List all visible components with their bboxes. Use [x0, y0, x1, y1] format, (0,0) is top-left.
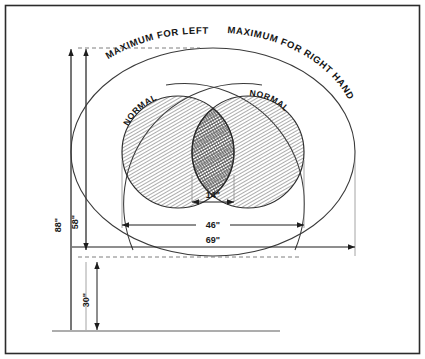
- dimension-46in-label: 46": [206, 220, 220, 230]
- diagram-canvas: MAXIMUM FOR LEFT HAND MAXIMUM FOR RIGHT …: [0, 0, 425, 359]
- reach-envelope-figure: MAXIMUM FOR LEFT HAND MAXIMUM FOR RIGHT …: [0, 0, 425, 359]
- dimension-58in-label: 58": [70, 215, 80, 229]
- dimension-69in-label: 69": [206, 235, 220, 245]
- dimension-30in-label: 30": [81, 293, 91, 307]
- dimension-88in-label: 88": [53, 218, 63, 232]
- dimension-14in-label: 14": [206, 190, 220, 200]
